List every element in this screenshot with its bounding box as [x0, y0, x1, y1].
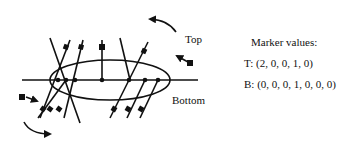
top-rotation-arrow-icon: [150, 19, 176, 32]
bottom-rotation-arrow-icon: [24, 122, 50, 134]
intersection-dot: [156, 78, 161, 83]
bottom-marker-square: [47, 106, 54, 113]
marker-values-title: Marker values:: [251, 36, 336, 48]
left-marker-arrow: [26, 97, 37, 101]
top-marker-square: [99, 44, 105, 50]
intersection-dot: [143, 78, 148, 83]
left-free-marker-square: [19, 94, 25, 100]
bottom-marker-square: [56, 106, 63, 113]
bottom-label: Bottom: [172, 94, 205, 106]
top-label: Top: [185, 33, 202, 45]
intersection-dot: [73, 78, 78, 83]
bottom-marker-values: B: (0, 0, 0, 1, 0, 0, 0): [244, 78, 336, 90]
intersection-dot: [100, 78, 105, 83]
intersection-dot: [56, 78, 61, 83]
marker-values-panel: Marker values: T: (2, 0, 0, 1, 0) B: (0,…: [244, 36, 336, 99]
right-free-marker-square: [187, 60, 193, 66]
intersection-dot: [64, 78, 69, 83]
right-marker-arrow: [177, 56, 188, 62]
top-marker-square: [78, 44, 84, 50]
crossing-line: [120, 38, 130, 80]
top-marker-values: T: (2, 0, 0, 1, 0): [244, 57, 336, 69]
intersection-dot: [127, 78, 132, 83]
